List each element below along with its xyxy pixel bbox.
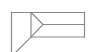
flag-drawing bbox=[0, 0, 90, 52]
diagonal-line bbox=[16, 37, 31, 52]
triangle-outline bbox=[31, 13, 43, 38]
flag-outline-icon bbox=[0, 0, 90, 52]
